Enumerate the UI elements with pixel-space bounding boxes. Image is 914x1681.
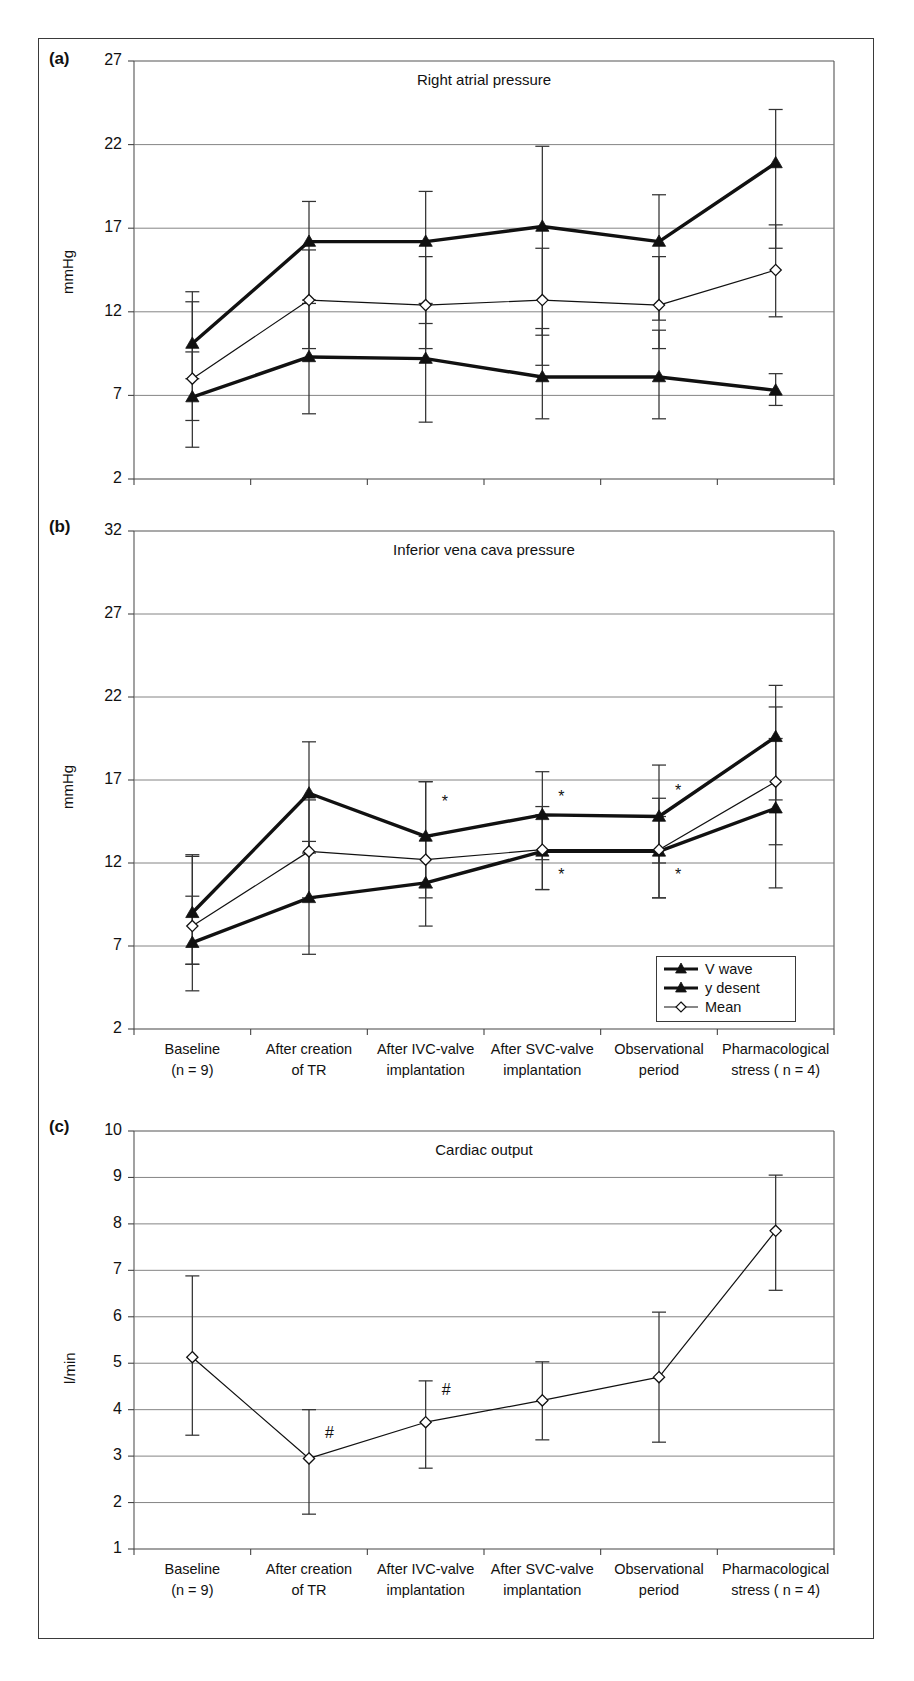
x-label-line2: implantation [484,1580,601,1601]
legend: V wavey desentMean [656,956,796,1022]
data-marker-diamond [770,1225,781,1236]
x-label-line2: (n = 9) [134,1060,251,1081]
y-tick-label: 27 [78,604,122,622]
data-marker-diamond [420,854,431,865]
y-tick-label: 2 [78,1493,122,1511]
legend-item-label: y desent [705,980,760,996]
legend-triangle-icon [662,961,700,977]
significance-marker: * [675,867,681,883]
x-label-line1: Pharmacological [717,1039,834,1060]
x-axis-category-label: After SVC-valveimplantation [484,1559,601,1601]
x-axis-category-label: After SVC-valveimplantation [484,1039,601,1081]
y-tick-label: 7 [78,936,122,954]
data-marker-diamond [420,300,431,311]
data-marker-diamond [537,1395,548,1406]
significance-marker: * [558,789,564,805]
series-line [192,1231,775,1459]
figure-container: (a) mmHg Right atrial pressure 272217127… [38,38,874,1639]
significance-marker: * [442,794,448,810]
y-tick-label: 12 [78,853,122,871]
y-tick-label: 8 [78,1214,122,1232]
data-marker-diamond [537,294,548,305]
x-label-line1: After IVC-valve [367,1039,484,1060]
x-label-line1: Observational [601,1559,718,1580]
data-marker-diamond [653,300,664,311]
x-label-line2: of TR [251,1580,368,1601]
panel-b: (b) mmHg Inferior vena cava pressure V w… [39,509,875,1109]
data-marker-triangle [769,156,782,167]
x-label-line1: After IVC-valve [367,1559,484,1580]
x-label-line2: implantation [484,1060,601,1081]
y-tick-label: 4 [78,1400,122,1418]
data-marker-diamond [303,846,314,857]
panel-a: (a) mmHg Right atrial pressure 272217127… [39,39,875,509]
x-label-line2: stress ( n = 4) [717,1060,834,1081]
y-tick-label: 7 [78,385,122,403]
data-marker-diamond [770,264,781,275]
y-tick-label: 2 [78,1019,122,1037]
x-axis-category-label: After IVC-valveimplantation [367,1039,484,1081]
x-label-line1: After creation [251,1039,368,1060]
legend-item-label: V wave [705,961,753,977]
significance-marker: * [558,867,564,883]
data-marker-diamond [187,373,198,384]
data-marker-diamond [770,776,781,787]
x-axis-category-label: Pharmacologicalstress ( n = 4) [717,1559,834,1601]
x-label-line1: Observational [601,1039,718,1060]
y-tick-label: 10 [78,1121,122,1139]
legend-diamond-icon [662,999,700,1015]
panel-c: (c) l/min Cardiac output 10987654321##Ba… [39,1109,875,1640]
legend-item: V wave [662,960,788,979]
x-label-line2: of TR [251,1060,368,1081]
x-label-line2: (n = 9) [134,1580,251,1601]
x-axis-category-label: After creationof TR [251,1559,368,1601]
x-axis-category-label: Observationalperiod [601,1039,718,1081]
legend-item: Mean [662,998,788,1017]
series-line [192,782,775,926]
y-tick-label: 27 [78,51,122,69]
y-tick-label: 17 [78,218,122,236]
y-tick-label: 3 [78,1446,122,1464]
y-tick-label: 12 [78,302,122,320]
legend-item-label: Mean [705,999,741,1015]
series-line [192,163,775,344]
data-marker-diamond [187,920,198,931]
x-axis-category-label: Pharmacologicalstress ( n = 4) [717,1039,834,1081]
panel-a-plot [39,39,875,509]
data-marker-triangle [302,787,315,798]
x-label-line1: After SVC-valve [484,1039,601,1060]
x-label-line1: After SVC-valve [484,1559,601,1580]
x-axis-category-label: Baseline(n = 9) [134,1039,251,1081]
y-tick-label: 9 [78,1167,122,1185]
significance-marker: * [675,783,681,799]
y-tick-label: 5 [78,1353,122,1371]
x-label-line2: period [601,1060,718,1081]
series-line [192,808,775,942]
y-tick-label: 22 [78,135,122,153]
y-tick-label: 6 [78,1307,122,1325]
x-axis-category-label: Observationalperiod [601,1559,718,1601]
x-label-line1: After creation [251,1559,368,1580]
x-axis-category-label: After creationof TR [251,1039,368,1081]
series-line [192,270,775,379]
series-line [192,357,775,397]
data-marker-diamond [653,1372,664,1383]
y-tick-label: 17 [78,770,122,788]
data-marker-diamond [420,1417,431,1428]
legend-item: y desent [662,979,788,998]
x-label-line2: implantation [367,1060,484,1081]
x-label-line1: Baseline [134,1039,251,1060]
legend-triangle-icon [662,980,700,996]
data-marker-triangle [769,802,782,813]
significance-marker: # [325,1425,334,1441]
y-tick-label: 22 [78,687,122,705]
x-axis-category-label: After IVC-valveimplantation [367,1559,484,1601]
y-tick-label: 32 [78,521,122,539]
x-label-line1: Pharmacological [717,1559,834,1580]
x-axis-category-label: Baseline(n = 9) [134,1559,251,1601]
x-label-line1: Baseline [134,1559,251,1580]
error-bar [535,248,549,365]
x-label-line2: implantation [367,1580,484,1601]
x-label-line2: stress ( n = 4) [717,1580,834,1601]
data-marker-triangle [769,730,782,741]
